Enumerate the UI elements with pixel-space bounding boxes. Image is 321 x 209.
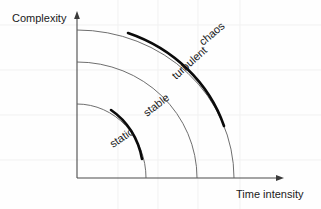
y-axis-arrowhead-icon [74,11,80,19]
diagram-canvas: Complexity Time intensity static stable … [0,0,321,209]
x-axis-label: Time intensity [236,188,304,200]
zone-label-static: static [107,125,135,150]
x-axis-arrowhead-icon [276,175,284,181]
zone-label-chaos: chaos [197,19,228,47]
y-axis-label: Complexity [12,12,67,24]
complexity-time-intensity-diagram: Complexity Time intensity static stable … [0,0,321,209]
axes-group [77,16,279,178]
zone-label-stable: stable [141,91,172,119]
